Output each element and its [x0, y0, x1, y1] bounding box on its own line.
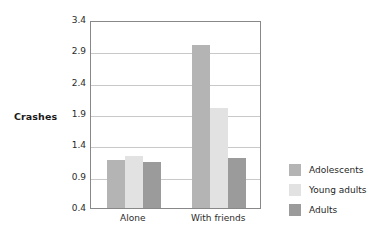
- legend-label: Young adults: [309, 185, 366, 195]
- legend-item[interactable]: Adolescents: [289, 160, 383, 180]
- legend: AdolescentsYoung adultsAdults: [289, 160, 383, 220]
- bar: [143, 162, 161, 208]
- bar-chart: Crashes 3.42.92.41.91.40.90.4 AloneWith …: [0, 0, 385, 243]
- bar: [228, 158, 246, 208]
- y-tick-label: 0.4: [56, 204, 86, 213]
- legend-swatch-icon: [289, 204, 301, 216]
- bar: [125, 156, 143, 208]
- legend-label: Adolescents: [309, 165, 363, 175]
- x-tick-label: With friends: [178, 213, 258, 223]
- gridline: [91, 147, 260, 148]
- y-axis-tick-labels: 3.42.92.41.91.40.90.4: [56, 0, 86, 243]
- plot-area: [90, 21, 261, 209]
- bar: [192, 45, 210, 208]
- legend-item[interactable]: Adults: [289, 200, 383, 220]
- gridline: [91, 85, 260, 86]
- x-tick-label: Alone: [93, 213, 173, 223]
- y-tick-label: 2.9: [56, 47, 86, 56]
- gridline: [91, 53, 260, 54]
- bar: [210, 108, 228, 208]
- bar: [107, 160, 125, 208]
- y-tick-label: 1.4: [56, 141, 86, 150]
- legend-swatch-icon: [289, 184, 301, 196]
- legend-swatch-icon: [289, 164, 301, 176]
- y-tick-label: 0.9: [56, 173, 86, 182]
- legend-item[interactable]: Young adults: [289, 180, 383, 200]
- y-axis-title: Crashes: [14, 111, 57, 122]
- y-tick-label: 3.4: [56, 16, 86, 25]
- y-tick-label: 1.9: [56, 110, 86, 119]
- gridline: [91, 116, 260, 117]
- y-tick-label: 2.4: [56, 79, 86, 88]
- legend-label: Adults: [309, 205, 337, 215]
